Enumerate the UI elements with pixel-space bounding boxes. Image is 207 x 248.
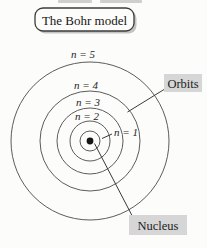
bohr-model-canvas: The Bohr model n = 5 n = 4 n = 3 n = 2 n… (0, 0, 207, 248)
orbit-label-n1: n = 1 (114, 126, 138, 138)
orbit-n1-leader-line (102, 134, 112, 139)
orbit-label-n3: n = 3 (76, 96, 100, 108)
diagram-title: The Bohr model (42, 13, 128, 28)
nucleus-dot (87, 138, 94, 145)
nucleus-callout: Nucleus (95, 144, 188, 236)
orbits-callout: Orbits (128, 74, 203, 112)
nucleus-label: Nucleus (138, 219, 179, 233)
bohr-model-diagram: The Bohr model n = 5 n = 4 n = 3 n = 2 n… (0, 0, 207, 248)
scan-artifact (58, 0, 92, 3)
scan-artifact (100, 0, 142, 3)
orbit-label-n2: n = 2 (75, 110, 99, 122)
orbits-label: Orbits (167, 77, 198, 91)
nucleus-leader-line (95, 144, 133, 217)
orbit-label-n5: n = 5 (71, 48, 95, 60)
orbit-label-n4: n = 4 (74, 79, 98, 91)
title-box: The Bohr model (35, 8, 137, 34)
